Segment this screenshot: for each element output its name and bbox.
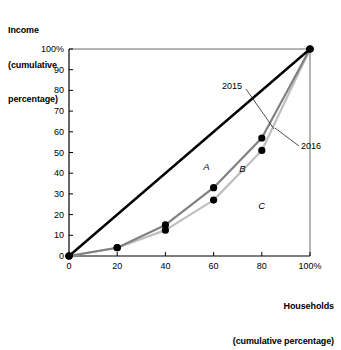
data-point-marker <box>258 134 265 141</box>
y-tick-label-90: 90 <box>30 65 64 75</box>
y-tick-label-70: 70 <box>30 106 64 116</box>
data-point-marker <box>210 184 217 191</box>
data-point-marker <box>258 147 265 154</box>
region-label-c: C <box>258 201 265 211</box>
x-tick-label-40: 40 <box>160 261 170 271</box>
x-tick-label-0: 0 <box>66 261 71 271</box>
data-series-layer <box>69 49 310 256</box>
data-point-marker <box>65 252 72 259</box>
y-tick-label-30: 30 <box>30 189 64 199</box>
y-tick-label-80: 80 <box>30 85 64 95</box>
y-tick-label-10: 10 <box>30 230 64 240</box>
y-axis-title-line-3: percentage) <box>8 94 58 106</box>
region-label-b: B <box>239 164 245 174</box>
data-point-marker <box>306 45 313 52</box>
series-label-2016: 2016 <box>301 141 321 151</box>
y-axis-title-line-1: Income <box>8 25 58 37</box>
x-axis-title: Households (cumulative percentage) <box>168 278 334 350</box>
y-tick-label-50: 50 <box>30 148 64 158</box>
leader-line-2016 <box>275 128 299 146</box>
x-tick-label-80: 80 <box>257 261 267 271</box>
x-tick-label-20: 20 <box>112 261 122 271</box>
region-label-a: A <box>203 162 209 172</box>
y-tick-label-60: 60 <box>30 127 64 137</box>
x-axis-title-line-1: Households <box>168 301 334 313</box>
x-tick-label-60: 60 <box>209 261 219 271</box>
data-point-marker <box>210 197 217 204</box>
leader-line-2015 <box>246 89 274 129</box>
y-tick-label-20: 20 <box>30 210 64 220</box>
data-point-marker <box>114 244 121 251</box>
y-tick-label-0: 0 <box>30 251 64 261</box>
x-tick-label-100%: 100% <box>298 261 321 271</box>
y-tick-label-40: 40 <box>30 168 64 178</box>
data-point-marker <box>162 227 169 234</box>
y-tick-label-100%: 100% <box>30 44 64 54</box>
x-axis-title-line-2: (cumulative percentage) <box>168 336 334 348</box>
series-label-2015: 2015 <box>222 81 242 91</box>
series-line-line-of-equality <box>69 49 310 256</box>
